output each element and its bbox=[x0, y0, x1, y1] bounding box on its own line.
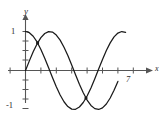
intersection-dot bbox=[84, 96, 87, 99]
y-tick-label-negative-one: -1 bbox=[6, 101, 13, 110]
y-tick-label-one: 1 bbox=[11, 27, 15, 36]
x-axis bbox=[8, 67, 153, 73]
y-axis-label: y bbox=[24, 7, 28, 16]
graph-canvas bbox=[0, 0, 164, 122]
x-tick-label-seven: 7 bbox=[126, 75, 130, 84]
intersection-dot bbox=[36, 41, 39, 44]
x-axis-arrowhead bbox=[146, 67, 153, 73]
math-figure: y x 1 -1 7 bbox=[0, 0, 164, 122]
x-axis-label: x bbox=[155, 65, 159, 73]
